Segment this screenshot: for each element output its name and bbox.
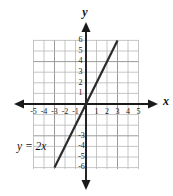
x-axis-right-arrow [148, 100, 158, 109]
x-tick-pos2: 2 [105, 107, 109, 116]
x-tick-neg3: -3 [51, 107, 58, 116]
x-tick-pos5: 5 [137, 107, 141, 116]
y-tick-pos2: 2 [79, 78, 83, 87]
x-tick-pos3: 3 [116, 107, 120, 116]
coordinate-graph: -5 -4 -3 -2 -1 1 2 3 4 5 6 5 4 3 2 1 -3 … [0, 0, 173, 196]
x-axis-label: x [162, 94, 169, 108]
y-axis-label: y [80, 5, 88, 19]
y-axis-up-arrow [82, 22, 91, 32]
x-tick-neg5: -5 [30, 107, 37, 116]
y-tick-pos1: 1 [79, 88, 83, 97]
y-tick-pos6: 6 [79, 35, 83, 44]
y-tick-pos5: 5 [79, 46, 83, 55]
y-tick-pos4: 4 [79, 56, 83, 65]
x-tick-neg2: -2 [62, 107, 69, 116]
y-tick-neg3: -3 [78, 131, 85, 140]
y-tick-neg6: -6 [78, 162, 85, 171]
x-tick-neg4: -4 [41, 107, 48, 116]
y-tick-pos3: 3 [79, 67, 83, 76]
y-axis-down-arrow [82, 180, 91, 190]
x-axis-left-arrow [14, 100, 24, 109]
x-tick-pos1: 1 [95, 107, 99, 116]
y-tick-neg4: -4 [78, 141, 85, 150]
equation-label: y = 2x [16, 140, 47, 153]
y-tick-neg5: -5 [78, 152, 85, 161]
x-tick-neg1: -1 [72, 107, 79, 116]
graph-svg: -5 -4 -3 -2 -1 1 2 3 4 5 6 5 4 3 2 1 -3 … [0, 0, 173, 196]
x-tick-pos4: 4 [126, 107, 130, 116]
